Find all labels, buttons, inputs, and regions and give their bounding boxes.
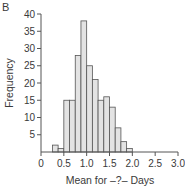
histogram-bar bbox=[58, 149, 64, 152]
y-axis-label: Frequency bbox=[3, 57, 15, 107]
x-axis-label: Mean for –?– Days bbox=[66, 174, 155, 186]
y-tick-label: 20 bbox=[24, 78, 36, 89]
x-tick-label: 1.0 bbox=[80, 158, 94, 169]
histogram-bar bbox=[70, 100, 76, 152]
histogram-bar bbox=[81, 21, 87, 152]
histogram-bar bbox=[52, 145, 58, 152]
panel-label: B bbox=[2, 1, 9, 13]
x-tick-label: 2.5 bbox=[148, 158, 162, 169]
histogram-bar bbox=[127, 149, 133, 152]
histogram-bar bbox=[104, 97, 110, 152]
histogram-bar bbox=[92, 80, 98, 152]
y-tick-label: 30 bbox=[24, 43, 36, 54]
x-axis-ticks: 00.51.01.52.02.53.0 bbox=[38, 152, 185, 169]
histogram-bar bbox=[87, 66, 93, 152]
histogram-bar bbox=[121, 142, 127, 152]
histogram-bar bbox=[98, 100, 104, 152]
histogram-bar bbox=[115, 128, 121, 152]
y-tick-label: 40 bbox=[24, 9, 36, 20]
y-tick-label: 15 bbox=[24, 95, 36, 106]
x-tick-label: 2.0 bbox=[125, 158, 139, 169]
y-tick-label: 10 bbox=[24, 112, 36, 123]
histogram-bar bbox=[75, 55, 81, 152]
y-tick-label: 35 bbox=[24, 26, 36, 37]
histogram-bar bbox=[64, 100, 70, 152]
x-tick-label: 0 bbox=[38, 158, 44, 169]
x-tick-label: 1.5 bbox=[103, 158, 117, 169]
x-tick-label: 3.0 bbox=[171, 158, 185, 169]
histogram-bar bbox=[110, 107, 116, 152]
y-tick-label: 25 bbox=[24, 60, 36, 71]
histogram-chart: B 510152025303540 00.51.01.52.02.53.0 Me… bbox=[0, 0, 185, 188]
y-tick-label: 5 bbox=[29, 129, 35, 140]
x-tick-label: 0.5 bbox=[57, 158, 71, 169]
y-axis-ticks: 510152025303540 bbox=[24, 9, 41, 141]
histogram-bars bbox=[52, 21, 132, 152]
